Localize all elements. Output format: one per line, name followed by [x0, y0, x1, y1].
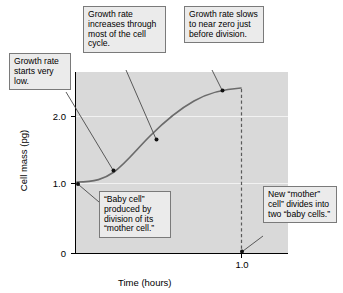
cell-growth-chart-figure: 0 1.0 2.0 1.0 Time (hours) Cell mass (pg…	[0, 0, 343, 293]
callout-baby-cell: “Baby cell” produced by division of its …	[99, 191, 171, 238]
leader-line-growth-slows	[212, 70, 222, 90]
callout-mother-cell-divides: New “mother” cell” divides into two “bab…	[263, 186, 337, 223]
callout-growth-rate-starts-low: Growth rate starts very low.	[9, 53, 71, 90]
leader-dot-growth-starts-low	[112, 169, 116, 173]
callout-growth-rate-slows: Growth rate slows to near zero just befo…	[184, 6, 264, 43]
leader-line-growth-starts-low	[66, 92, 113, 170]
leader-dot-growth-slows	[221, 89, 225, 93]
cell-mass-curve	[77, 88, 241, 182]
leader-line-mother-cell-divides	[243, 236, 263, 251]
leader-dot-baby-cell	[76, 182, 80, 186]
leader-line-growth-increases	[126, 70, 156, 139]
callout-growth-rate-increases: Growth rate increases through most of th…	[83, 6, 166, 53]
leader-line-baby-cell	[79, 185, 99, 202]
leader-dot-growth-increases	[155, 138, 159, 142]
leader-dot-mother-cell-divides	[240, 250, 244, 254]
chart-vector-layer	[0, 0, 343, 293]
